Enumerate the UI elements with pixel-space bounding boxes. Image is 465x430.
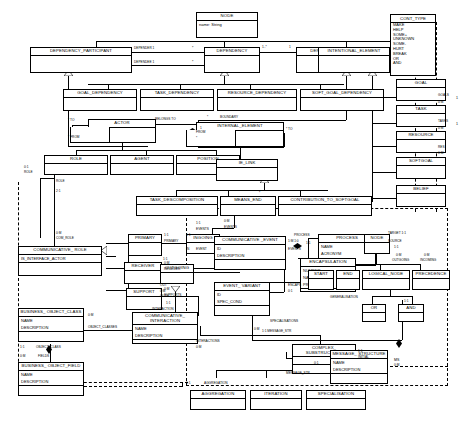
- assoc-label: TARGET 1:1: [388, 232, 406, 236]
- class-role[interactable]: ROLE: [44, 155, 108, 175]
- assoc-label: IN: [186, 248, 189, 252]
- assoc-label: GENERALISATION: [330, 296, 358, 300]
- multiplicity-label: 1:1: [196, 222, 200, 226]
- class-name: AGENT: [111, 156, 173, 164]
- class-soft-goal-dependency[interactable]: SOFT_GOAL_DEPENDENCY: [300, 89, 384, 111]
- class-resource-dependency[interactable]: RESOURCE_DEPENDENCY: [217, 89, 297, 111]
- multiplicity-label: 0:M: [196, 346, 201, 350]
- class-name: COMMUNICATIVE_ ROLE: [19, 247, 101, 255]
- class-and[interactable]: AND: [398, 304, 424, 322]
- class-communicative-interaction[interactable]: COMMUNICATIVE_ INTERACTION NAME DESCRIPT…: [132, 312, 198, 344]
- class-name: SPECIALISATION: [307, 391, 365, 399]
- assoc-label: * TO: [68, 119, 74, 123]
- class-node-top[interactable]: NODE name: String: [196, 12, 258, 38]
- class-business-object-class[interactable]: BUSINESS_ OBJECT_CLASS NAME DESCRIPTION: [18, 308, 84, 342]
- class-name: IE_LINK: [217, 160, 277, 168]
- class-name: BUSINESS_ OBJECT_CLASS: [19, 309, 83, 317]
- assoc-label: OUT: [160, 284, 167, 288]
- class-name: SOFT_GOAL_DEPENDENCY: [301, 90, 383, 98]
- multiplicity-label: *: [192, 46, 193, 50]
- class-attribute: DESCRIPTION: [19, 378, 83, 386]
- multiplicity-label: 1..*: [262, 46, 267, 50]
- assoc-label: EVENT: [196, 248, 207, 252]
- class-attribute: NAME: [133, 325, 197, 332]
- class-attribute: name: String: [197, 21, 257, 28]
- class-dependency-participant[interactable]: DEPENDENCY_PARTICIPANT: [30, 47, 132, 73]
- multiplicity-label: *: [196, 137, 197, 141]
- class-name: ENCAPSULATION: [301, 259, 355, 267]
- class-attribute: ID: [215, 291, 269, 298]
- class-receiver[interactable]: RECEIVER: [124, 262, 162, 284]
- class-event-variant[interactable]: EVENT_ VARIANT ID SPEC_COND: [214, 282, 270, 316]
- assoc-label: INITIAL: [358, 356, 369, 360]
- multiplicity-label: 1:1: [186, 234, 190, 238]
- class-name: RECEIVER: [125, 263, 161, 271]
- assoc-label: PRIMARY: [164, 240, 178, 244]
- class-name: ROLE: [45, 156, 107, 164]
- class-aggregation[interactable]: AGGREGATION: [190, 390, 246, 410]
- multiplicity-label: 1:M 1:0: [288, 240, 299, 244]
- class-name: LOGICAL_NODE: [363, 271, 409, 279]
- class-precedence[interactable]: PRECEDENCE: [412, 270, 450, 290]
- multiplicity-label: 0:M: [438, 152, 443, 156]
- multiplicity-label: 1:1: [164, 234, 168, 238]
- assoc-label: EVENTS: [288, 248, 301, 252]
- class-name: PRECEDENCE: [413, 271, 449, 279]
- class-intentional-element[interactable]: INTENTIONAL_ELEMENT: [318, 47, 390, 73]
- class-end[interactable]: END: [336, 270, 360, 290]
- class-attribute: IS_INTERFACE_ACTOR: [19, 255, 101, 263]
- class-primary[interactable]: PRIMARY: [128, 234, 162, 256]
- multiplicity-label: 0:M: [254, 328, 259, 332]
- enumeration-cont-type[interactable]: CONT_TYPE MAKE HELP SOME+ UNKNOWN SOME- …: [390, 14, 436, 76]
- class-iteration[interactable]: ITERATION: [250, 390, 302, 410]
- class-contribution-to-softgoal[interactable]: CONTRIBUTION_TO_SOFTGOAL: [278, 196, 372, 216]
- class-task[interactable]: TASK: [396, 105, 446, 127]
- multiplicity-label: 1: [289, 46, 291, 50]
- class-softgoal[interactable]: SOFTGOAL: [396, 157, 446, 179]
- assoc-label: ROLE: [56, 180, 65, 184]
- class-goal-dependency[interactable]: GOAL_DEPENDENCY: [63, 89, 137, 111]
- class-goal[interactable]: GOAL: [396, 79, 446, 101]
- assoc-label: ROLE: [24, 171, 33, 175]
- class-means-end[interactable]: MEANS_END: [220, 196, 276, 216]
- class-attribute: DESCRIPTION: [19, 324, 83, 332]
- class-name: COMMUNICATIVE _EVENT: [215, 237, 285, 245]
- class-communicative-event[interactable]: COMMUNICATIVE _EVENT ID DESCRIPTION: [214, 236, 286, 270]
- class-communicative-role[interactable]: COMMUNICATIVE_ ROLE IS_INTERFACE_ACTOR: [18, 246, 102, 276]
- class-name: TASK: [397, 106, 445, 114]
- generalisation-triangle: [171, 286, 180, 292]
- class-start[interactable]: START: [308, 270, 334, 290]
- assoc-label: SPECIALISATIONS: [270, 320, 298, 324]
- assoc-label: SOURCE: [388, 240, 402, 244]
- class-node-flow[interactable]: NODE: [364, 234, 390, 254]
- class-dependency[interactable]: DEPENDENCY: [204, 47, 260, 73]
- multiplicity-label: 0:M: [438, 101, 443, 105]
- class-ie-link[interactable]: IE_LINK: [216, 159, 278, 181]
- multiplicity-label: 0:M: [224, 220, 229, 224]
- assoc-label: BOUNDARY: [220, 116, 238, 120]
- class-name: GOAL_DEPENDENCY: [64, 90, 136, 98]
- class-logical-node[interactable]: LOGICAL_NODE: [362, 270, 410, 290]
- multiplicity-label: 1: [456, 122, 458, 126]
- assoc-label: 1:1 MESSAGE_STR: [262, 330, 291, 334]
- assoc-label: EVENTS: [196, 228, 209, 232]
- class-name: MEANS_END: [221, 197, 275, 205]
- assoc-label: OBJECT_CLASSES: [88, 326, 117, 330]
- class-or[interactable]: OR: [362, 304, 386, 322]
- assoc-label: PROCESS: [294, 234, 310, 238]
- class-business-object-field[interactable]: BUSINESS_ OBJECT_FIELD NAME DESCRIPTION: [18, 362, 84, 396]
- class-task-dependency[interactable]: TASK_DEPENDENCY: [140, 89, 214, 111]
- class-belief[interactable]: BELIEF: [396, 185, 446, 207]
- class-resource[interactable]: RESOURCE: [396, 131, 446, 153]
- class-name: COMMUNICATIVE_ INTERACTION: [133, 313, 197, 325]
- assoc-label: * TO: [286, 128, 292, 132]
- class-task-descomposition[interactable]: TASK_DESCOMPOSITION: [136, 196, 218, 216]
- class-name: DEPENDENCY_PARTICIPANT: [31, 48, 131, 56]
- class-specialisation[interactable]: SPECIALISATION: [306, 390, 366, 410]
- class-agent[interactable]: AGENT: [110, 155, 174, 175]
- class-name: BUSINESS_ OBJECT_FIELD: [19, 363, 83, 371]
- class-name: NODE: [365, 235, 389, 243]
- assoc-label: GOALS: [438, 94, 449, 98]
- assoc-label: INTERACTION: [152, 308, 174, 312]
- class-name: START: [309, 271, 333, 279]
